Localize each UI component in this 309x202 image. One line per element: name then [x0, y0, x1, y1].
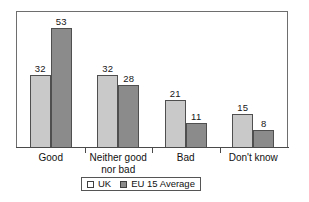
category-label-line2: nor bad	[85, 164, 153, 176]
category-label-line1: Don't know	[229, 152, 278, 163]
legend-label: EU 15 Average	[131, 179, 195, 189]
bar-value-label: 8	[261, 118, 266, 129]
category-label: Don't know	[220, 152, 288, 164]
bar-slot: 28	[118, 12, 139, 148]
bar-group: 3228	[85, 12, 153, 148]
bar-slot: 32	[30, 12, 51, 148]
legend-item: EU 15 Average	[120, 179, 195, 189]
bar-slot: 11	[186, 12, 207, 148]
bar	[165, 100, 186, 148]
bar	[232, 114, 253, 148]
bar-value-label: 53	[56, 16, 67, 27]
axis-tick	[220, 148, 221, 153]
bar	[186, 123, 207, 148]
bar-value-label: 15	[237, 102, 248, 113]
category-label: Bad	[152, 152, 220, 164]
bar	[97, 75, 118, 148]
legend-label: UK	[98, 179, 111, 189]
bar	[118, 85, 139, 148]
bar-group: 3253	[17, 12, 85, 148]
chart-legend: UKEU 15 Average	[81, 177, 201, 191]
bar-slot: 15	[232, 12, 253, 148]
category-label-line1: Neither good	[90, 152, 147, 163]
category-label-line1: Bad	[177, 152, 195, 163]
category-axis-labels: GoodNeither goodnor badBadDon't know	[17, 152, 287, 178]
bar-slot: 21	[165, 12, 186, 148]
legend-swatch-icon	[87, 181, 94, 188]
bar-value-label: 32	[35, 63, 46, 74]
legend-item: UK	[87, 179, 111, 189]
bar-value-label: 11	[191, 111, 201, 122]
category-label: Good	[17, 152, 85, 164]
bar-slot: 53	[51, 12, 72, 148]
legend-swatch-icon	[120, 181, 127, 188]
bar-group: 2111	[152, 12, 220, 148]
category-label: Neither goodnor bad	[85, 152, 153, 175]
axis-tick	[85, 148, 86, 153]
bar-value-label: 28	[123, 73, 134, 84]
bar-value-label: 21	[170, 88, 181, 99]
axis-tick	[152, 148, 153, 153]
bar-chart: 325332282111158 GoodNeither goodnor badB…	[0, 0, 309, 202]
bar	[30, 75, 51, 148]
category-label-line1: Good	[39, 152, 63, 163]
bar-value-label: 32	[102, 63, 113, 74]
bar-slot: 8	[253, 12, 274, 148]
bar	[51, 28, 72, 148]
bar-group: 158	[220, 12, 288, 148]
bar-slot: 32	[97, 12, 118, 148]
bar	[253, 130, 274, 148]
plot-area: 325332282111158	[17, 12, 287, 148]
